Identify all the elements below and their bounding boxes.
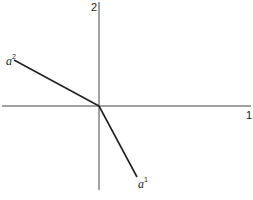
vertical-axis-label: 2 xyxy=(91,2,97,13)
vector-a1 xyxy=(99,106,137,177)
vector-a1-superscript: 1 xyxy=(144,176,148,183)
vector-a2-superscript: 2 xyxy=(12,53,16,60)
vector-a1-label: a1 xyxy=(138,178,148,190)
vector-a2-label: a2 xyxy=(6,55,16,67)
diagram-canvas xyxy=(0,0,253,200)
vector-a2 xyxy=(14,60,99,106)
horizontal-axis-label: 1 xyxy=(246,110,252,121)
